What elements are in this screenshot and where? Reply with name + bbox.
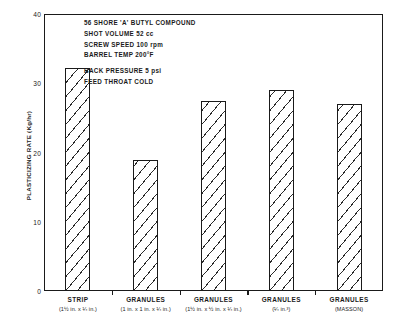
- annotation-line: FEED THROAT COLD: [84, 77, 196, 88]
- plasticizing-rate-bar-chart: PLASTICIZING RATE (Kg/hr) 010203040 STRI…: [0, 0, 394, 327]
- y-tick-label: 0: [13, 288, 41, 295]
- x-category-name: STRIP: [44, 296, 112, 304]
- annotation-line: BACK PRESSURE 5 psi: [84, 66, 196, 77]
- annotation-line: BARREL TEMP 200°F: [84, 50, 196, 61]
- x-tick-mark: [112, 291, 113, 295]
- y-tick-label: 30: [13, 80, 41, 87]
- x-tick-mark: [315, 291, 316, 295]
- x-category-name: GRANULES: [112, 296, 180, 304]
- x-category-sublabel: (1½ in. x ¼ in.): [44, 306, 112, 313]
- x-category-sublabel: (1 in. x 1 in. x ¼ in.): [112, 306, 180, 313]
- bar: [269, 90, 294, 291]
- bar: [201, 101, 226, 291]
- chart-annotation-block: 56 SHORE 'A' BUTYL COMPOUNDSHOT VOLUME 5…: [84, 18, 196, 88]
- x-category-label: GRANULES(MASSON): [315, 296, 383, 312]
- x-category-label: STRIP(1½ in. x ¼ in.): [44, 296, 112, 312]
- x-category-sublabel: (1½ in. x ½ in. x ¼ in.): [180, 306, 248, 313]
- bar: [133, 160, 158, 291]
- x-category-sublabel: (¼ in.³): [247, 306, 315, 313]
- annotation-line: SHOT VOLUME 52 cc: [84, 29, 196, 40]
- x-category-label: GRANULES(¼ in.³): [247, 296, 315, 312]
- x-category-name: GRANULES: [247, 296, 315, 304]
- bar: [65, 68, 90, 291]
- y-tick-label: 20: [13, 149, 41, 156]
- annotation-line: SCREW SPEED 100 rpm: [84, 40, 196, 51]
- x-category-name: GRANULES: [315, 296, 383, 304]
- annotation-line: 56 SHORE 'A' BUTYL COMPOUND: [84, 18, 196, 29]
- x-category-sublabel: (MASSON): [315, 306, 383, 313]
- x-tick-mark: [247, 291, 248, 295]
- x-category-label: GRANULES(1½ in. x ½ in. x ¼ in.): [180, 296, 248, 312]
- x-tick-mark: [180, 291, 181, 295]
- bar: [337, 104, 362, 291]
- x-category-label: GRANULES(1 in. x 1 in. x ¼ in.): [112, 296, 180, 312]
- y-tick-label: 40: [13, 11, 41, 18]
- x-category-name: GRANULES: [180, 296, 248, 304]
- y-tick-label: 10: [13, 218, 41, 225]
